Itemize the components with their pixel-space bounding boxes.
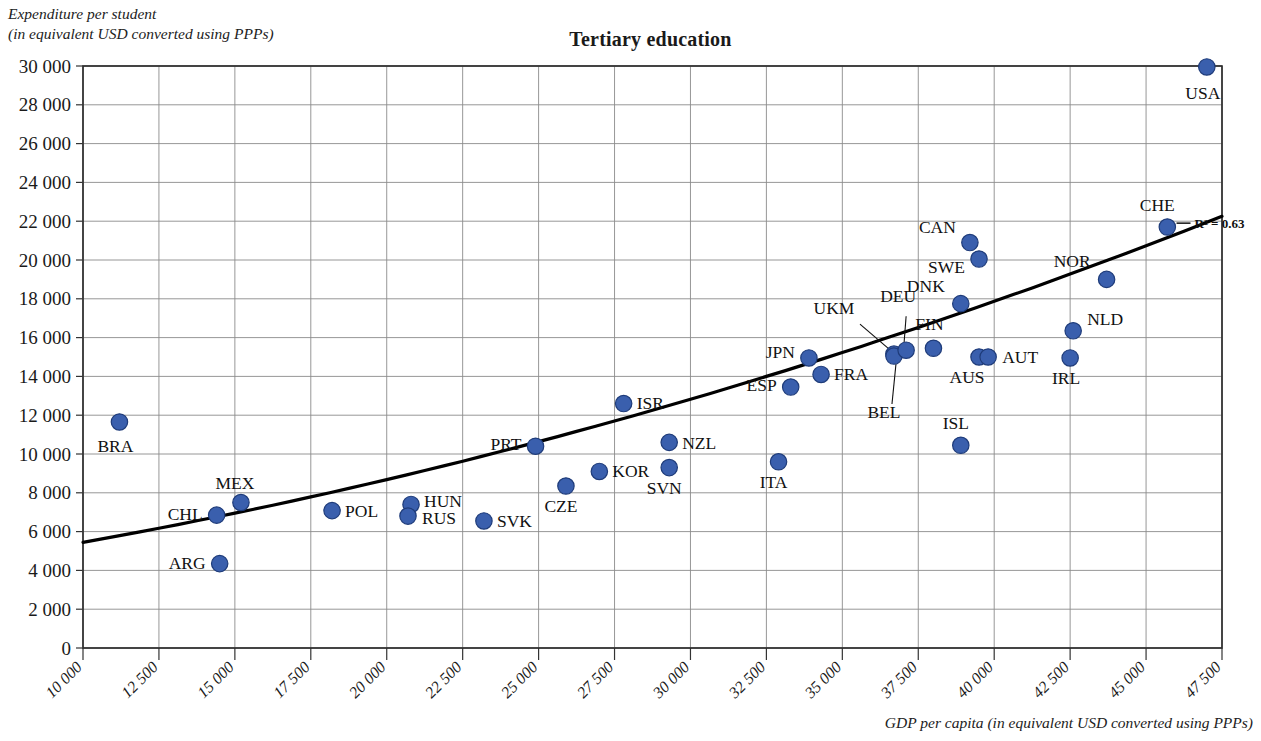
data-point-label-bra: BRA <box>97 436 133 456</box>
data-point-label-isl: ISL <box>943 413 969 433</box>
data-point-label-rus: RUS <box>422 508 456 528</box>
x-tick-label: 17 500 <box>270 658 313 701</box>
x-tick-label: 22 500 <box>422 658 465 701</box>
y-tick-label: 24 000 <box>19 172 71 193</box>
x-tick-label: 20 000 <box>346 658 389 701</box>
data-point-swe[interactable] <box>971 251 987 267</box>
data-point-label-nzl: NZL <box>682 433 716 453</box>
data-point-label-usa: USA <box>1185 83 1220 103</box>
x-tick-label: 47 500 <box>1181 658 1224 701</box>
x-tick-label: 45 000 <box>1105 658 1148 701</box>
data-point-label-kor: KOR <box>612 461 649 481</box>
data-point-rus[interactable] <box>400 508 416 524</box>
data-point-label-esp: ESP <box>747 375 777 395</box>
data-point-label-can: CAN <box>919 217 956 237</box>
x-tick-label: 25 000 <box>498 658 541 701</box>
data-point-arg[interactable] <box>211 555 227 571</box>
data-point-irl[interactable] <box>1062 350 1078 366</box>
data-point-label-svk: SVK <box>497 511 532 531</box>
x-tick-label: 15 000 <box>194 658 237 701</box>
y-tick-label: 6 000 <box>28 521 71 542</box>
data-point-label-irl: IRL <box>1052 368 1080 388</box>
data-point-label-fra: FRA <box>834 364 868 384</box>
data-point-label-aut: AUT <box>1002 347 1038 367</box>
x-tick-label: 10 000 <box>42 658 85 701</box>
y-tick-label: 8 000 <box>28 482 71 503</box>
y-tick-label: 10 000 <box>19 444 71 465</box>
y-tick-label: 30 000 <box>19 56 71 77</box>
x-tick-label: 42 500 <box>1029 658 1072 701</box>
y-tick-label: 14 000 <box>19 366 71 387</box>
data-point-isl[interactable] <box>953 437 969 453</box>
data-point-nzl[interactable] <box>661 434 677 450</box>
y-tick-label: 20 000 <box>19 250 71 271</box>
y-tick-label: 12 000 <box>19 405 71 426</box>
data-point-fin[interactable] <box>925 340 941 356</box>
data-point-isr[interactable] <box>615 395 631 411</box>
x-tick-label: 30 000 <box>649 658 693 702</box>
data-point-dnk[interactable] <box>953 295 969 311</box>
plot-frame <box>83 66 1222 648</box>
data-point-label-svn: SVN <box>647 478 682 498</box>
plot-area: 02 0004 0006 0008 00010 00012 00014 0001… <box>0 0 1261 741</box>
data-point-pol[interactable] <box>324 502 340 518</box>
data-point-label-ita: ITA <box>760 472 788 492</box>
y-tick-label: 18 000 <box>19 288 71 309</box>
data-point-nor[interactable] <box>1098 271 1114 287</box>
data-point-label-mex: MEX <box>215 473 254 493</box>
data-point-chl[interactable] <box>208 507 224 523</box>
data-point-usa[interactable] <box>1199 59 1215 75</box>
y-tick-label: 4 000 <box>28 560 71 581</box>
x-tick-label: 40 000 <box>953 658 996 701</box>
y-tick-label: 0 <box>62 638 72 659</box>
y-tick-label: 16 000 <box>19 327 71 348</box>
data-point-label-pol: POL <box>345 501 378 521</box>
x-tick-label: 32 500 <box>725 658 769 702</box>
data-point-label-aus: AUS <box>950 367 985 387</box>
data-point-label-che: CHE <box>1140 195 1175 215</box>
data-point-nld[interactable] <box>1065 323 1081 339</box>
scatter-chart: Expenditure per student (in equivalent U… <box>0 0 1261 741</box>
x-tick-label: 35 000 <box>801 658 845 702</box>
data-point-label-jpn: JPN <box>766 342 796 362</box>
data-point-label-bel: BEL <box>867 402 900 422</box>
data-point-label-ukm: UKM <box>814 298 855 318</box>
data-point-mex[interactable] <box>233 494 249 510</box>
data-point-esp[interactable] <box>782 379 798 395</box>
y-tick-label: 2 000 <box>28 599 71 620</box>
y-tick-label: 22 000 <box>19 211 71 232</box>
label-leader-line <box>904 316 906 342</box>
data-point-deu[interactable] <box>898 342 914 358</box>
data-point-aut[interactable] <box>980 349 996 365</box>
x-tick-label: 12 500 <box>118 658 161 701</box>
data-point-label-swe: SWE <box>928 257 965 277</box>
data-point-label-nld: NLD <box>1087 309 1123 329</box>
data-point-label-nor: NOR <box>1054 251 1091 271</box>
data-point-kor[interactable] <box>591 463 607 479</box>
data-point-jpn[interactable] <box>801 350 817 366</box>
data-point-label-arg: ARG <box>169 553 206 573</box>
y-tick-label: 28 000 <box>19 94 71 115</box>
data-point-cze[interactable] <box>558 478 574 494</box>
y-tick-label: 26 000 <box>19 133 71 154</box>
x-tick-label: 37 500 <box>877 658 921 702</box>
x-tick-label: 27 500 <box>574 658 617 701</box>
data-point-svn[interactable] <box>661 459 677 475</box>
data-point-label-prt: PRT <box>491 434 522 454</box>
data-point-label-dnk: DNK <box>907 276 945 296</box>
data-point-che[interactable] <box>1159 219 1175 235</box>
data-point-fra[interactable] <box>813 366 829 382</box>
data-point-bra[interactable] <box>111 414 127 430</box>
label-leader-line <box>892 364 896 404</box>
data-point-ita[interactable] <box>770 454 786 470</box>
data-point-label-cze: CZE <box>544 496 577 516</box>
data-point-svk[interactable] <box>476 513 492 529</box>
data-point-can[interactable] <box>962 234 978 250</box>
r2-annotation: R² = 0.63 <box>1195 216 1245 231</box>
data-point-label-fin: FIN <box>915 314 944 334</box>
data-point-prt[interactable] <box>527 438 543 454</box>
data-point-label-isr: ISR <box>637 393 665 413</box>
data-point-label-chl: CHL <box>168 504 203 524</box>
